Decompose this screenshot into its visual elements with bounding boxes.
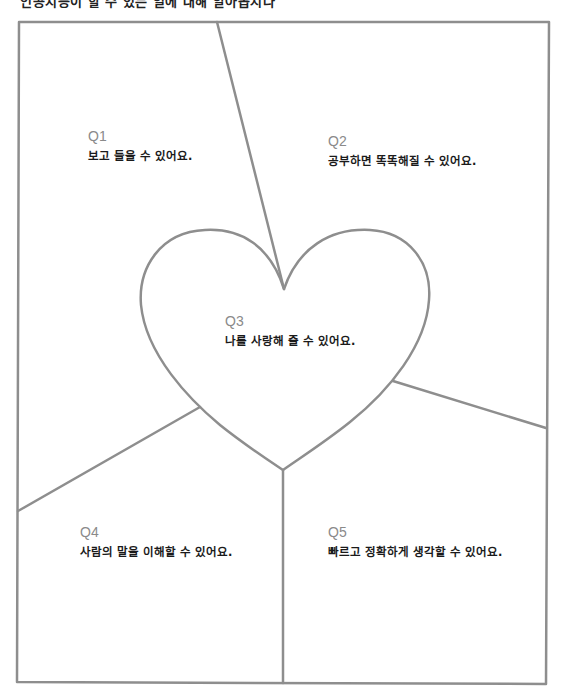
question-number: Q3 — [225, 313, 355, 329]
question-number: Q5 — [328, 524, 502, 540]
section-q5: Q5 빠르고 정확하게 생각할 수 있어요. — [328, 524, 502, 559]
divider-right — [393, 381, 546, 428]
question-text: 빠르고 정확하게 생각할 수 있어요. — [328, 543, 502, 559]
question-number: Q4 — [80, 524, 232, 540]
question-number: Q1 — [88, 128, 192, 144]
question-text: 공부하면 똑똑해질 수 있어요. — [328, 152, 476, 168]
diagram-frame — [0, 0, 562, 700]
question-text: 사람의 말을 이해할 수 있어요. — [80, 543, 232, 559]
divider-left — [18, 407, 200, 511]
section-q3: Q3 나를 사랑해 줄 수 있어요. — [225, 313, 355, 348]
question-number: Q2 — [328, 133, 476, 149]
question-text: 나를 사랑해 줄 수 있어요. — [225, 332, 355, 348]
heart-shape — [141, 230, 430, 470]
section-q4: Q4 사람의 말을 이해할 수 있어요. — [80, 524, 232, 559]
section-q1: Q1 보고 들을 수 있어요. — [88, 128, 192, 163]
divider-top — [217, 22, 284, 289]
question-text: 보고 들을 수 있어요. — [88, 147, 192, 163]
section-q2: Q2 공부하면 똑똑해질 수 있어요. — [328, 133, 476, 168]
